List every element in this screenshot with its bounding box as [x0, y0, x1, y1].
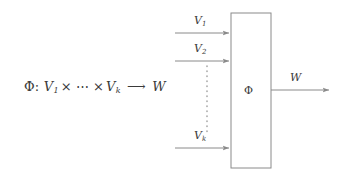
figure-canvas: Φ: V1×⋯×Vk ⟶ W V1 V2 Vk W Φ [0, 0, 343, 176]
operator-box-label: Φ [244, 84, 253, 97]
input-label-v2: V2 [194, 42, 206, 56]
input-label-v1: V1 [194, 14, 206, 28]
input-label-vk: Vk [194, 129, 206, 143]
diagram-graphics [0, 0, 343, 176]
output-label-w: W [290, 71, 301, 84]
